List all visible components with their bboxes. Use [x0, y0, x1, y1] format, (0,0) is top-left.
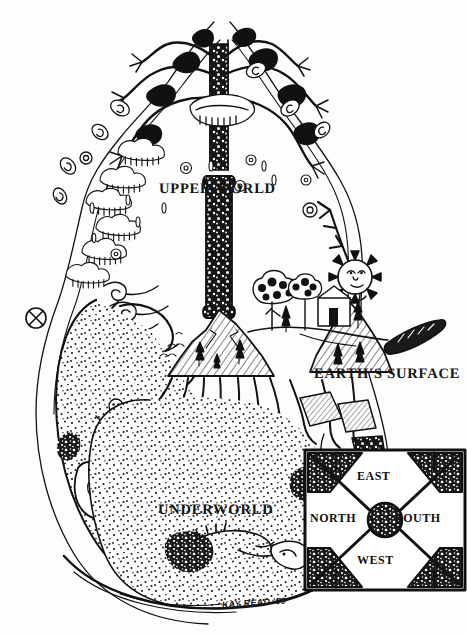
- compass-label-west: WEST: [357, 553, 394, 568]
- compass-label-north: NORTH: [310, 511, 356, 526]
- label-upper-world: UPPER WORLD: [159, 181, 276, 198]
- cosmos-diagram-page: UPPER WORLD EARTH'S SURFACE UNDERWORLD E…: [0, 0, 467, 634]
- compass-label-east: EAST: [357, 469, 390, 484]
- label-underworld: UNDERWORLD: [158, 502, 273, 519]
- label-earths-surface: EARTH'S SURFACE: [314, 366, 460, 383]
- compass-label-south: SOUTH: [396, 511, 441, 526]
- cosmos-illustration: [0, 0, 467, 634]
